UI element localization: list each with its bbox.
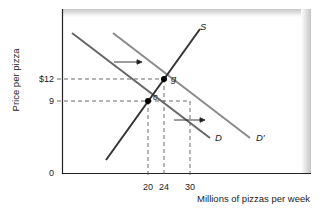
arrow-head-icon [137, 60, 142, 64]
y-tick-0: 0 [49, 168, 54, 178]
y-axis-label: Price per pizza [10, 48, 21, 112]
supply-demand-chart: c g S D D' $12 9 0 20 24 30 Millions of … [0, 0, 319, 213]
x-tick-20: 20 [143, 182, 153, 192]
x-tick-24: 24 [159, 182, 169, 192]
point-label-g: g [171, 73, 177, 84]
x-axis-label: Millions of pizzas per week [197, 193, 310, 204]
x-tick-30: 30 [185, 182, 195, 192]
guide-lines [57, 79, 190, 177]
demand-curve [72, 33, 210, 138]
y-tick-12: $12 [39, 74, 54, 84]
equilibrium-point-g [161, 76, 167, 82]
curve-label-d: D [215, 132, 222, 143]
arrow-head-icon [200, 118, 205, 122]
curve-label-s: S [200, 21, 207, 32]
frame-top-shade [63, 9, 311, 17]
frame-right-shade [301, 9, 311, 173]
equilibrium-point-c [145, 98, 151, 104]
point-label-c: c [153, 91, 158, 102]
curve-label-d-prime: D' [256, 132, 266, 143]
y-tick-9: 9 [49, 96, 54, 106]
